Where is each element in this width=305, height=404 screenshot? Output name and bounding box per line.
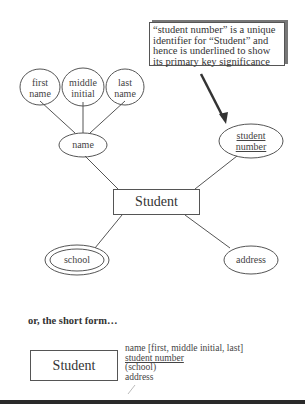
callout-note: “student number” is a unique identifier … xyxy=(149,22,285,66)
attr-last-name-line1: last xyxy=(106,77,144,88)
attr-first-name-line1: first xyxy=(22,77,58,88)
entity-student: Student xyxy=(113,189,200,215)
attr-last-name-line2: name xyxy=(106,88,144,99)
short-form-attributes: name [first, middle initial, last] stude… xyxy=(125,344,243,382)
attr-first-name: first name xyxy=(22,77,58,99)
attr-student-number-line1: student xyxy=(221,130,281,141)
bottom-bar xyxy=(0,400,305,404)
short-form-entity: Student xyxy=(30,350,118,381)
short-attr-address: address xyxy=(125,373,243,383)
attr-last-name: last name xyxy=(106,77,144,99)
attr-student-number-line2: number xyxy=(221,141,281,152)
attr-middle-initial: middle initial xyxy=(62,77,104,99)
attr-school: school xyxy=(50,254,104,265)
short-form-heading: or, the short form… xyxy=(28,315,117,326)
attr-name: name xyxy=(59,139,107,150)
attr-first-name-line2: name xyxy=(22,88,58,99)
attr-middle-initial-line1: middle xyxy=(62,77,104,88)
attr-middle-initial-line2: initial xyxy=(62,88,104,99)
attr-address: address xyxy=(224,254,278,265)
attr-student-number: student number xyxy=(221,130,281,152)
